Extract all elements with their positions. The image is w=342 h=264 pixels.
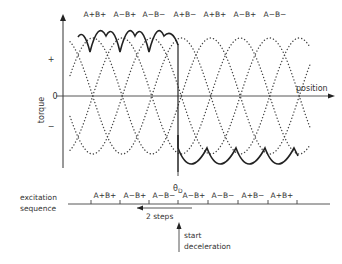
y-tick-plus: + (48, 55, 55, 64)
phase-label: A−B+ (234, 10, 257, 19)
torque-envelope-positive (78, 31, 178, 52)
phase-label: A−B− (143, 10, 166, 19)
y-axis (60, 14, 66, 168)
y-tick-zero: 0 (52, 92, 57, 101)
x-axis (56, 94, 335, 99)
phase-label: A+B+ (84, 10, 107, 19)
torque-position-diagram: torque + 0 − position θD A+B+ A−B+ A−B− … (0, 0, 342, 264)
excitation-title-line1: excitation (20, 193, 57, 202)
excitation-step: A+B+ (94, 191, 117, 200)
excitation-steps: A+B+ A−B+ A−B− A−B+ A−B− A+B− A+B+ (94, 191, 294, 200)
excitation-step: A−B+ (183, 191, 206, 200)
excitation-title-line2: sequence (20, 204, 57, 213)
excitation-step: A+B+ (271, 191, 294, 200)
up-arrow-icon (177, 222, 182, 229)
y-axis-label: torque (37, 97, 46, 123)
excitation-step: A−B− (153, 191, 176, 200)
excitation-step: A−B− (212, 191, 235, 200)
two-steps-label: 2 steps (146, 212, 173, 221)
y-tick-minus: − (48, 122, 55, 131)
x-axis-arrow-icon (328, 94, 335, 99)
excitation-ticks (91, 200, 297, 204)
phase-label: A+B− (174, 10, 197, 19)
phase-label: A−B+ (114, 10, 137, 19)
phase-label: A−B− (264, 10, 287, 19)
excitation-step: A−B+ (124, 191, 147, 200)
y-axis-arrow-icon (60, 14, 66, 21)
torque-envelope-negative (178, 135, 298, 164)
start-deceleration-line2: deceleration (184, 242, 231, 251)
excitation-step: A+B− (242, 191, 265, 200)
phase-labels-top: A+B+ A−B+ A−B− A+B− A+B+ A−B+ A−B− (84, 10, 287, 19)
phase-label: A+B+ (204, 10, 227, 19)
x-axis-label: position (296, 84, 328, 93)
left-arrow-icon (137, 206, 143, 211)
start-deceleration-line1: start (184, 231, 202, 240)
